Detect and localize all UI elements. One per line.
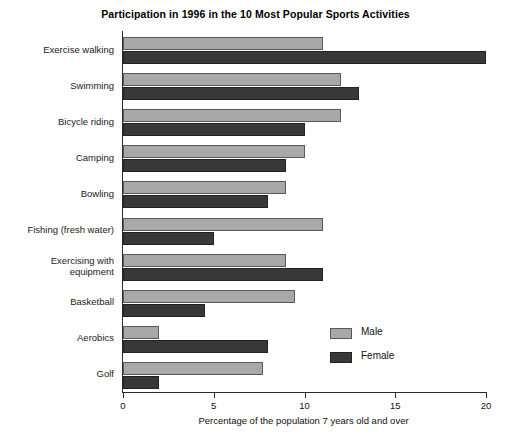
legend-label: Male bbox=[361, 326, 383, 337]
legend-item-male: Male bbox=[330, 326, 450, 343]
x-tick-mark bbox=[214, 392, 215, 398]
legend-item-female: Female bbox=[330, 350, 450, 367]
bar-female bbox=[123, 51, 486, 64]
bar-group bbox=[123, 218, 486, 244]
y-axis-label: Camping bbox=[0, 152, 114, 163]
bar-female bbox=[123, 268, 323, 281]
bar-female bbox=[123, 159, 286, 172]
x-tick-label: 20 bbox=[471, 400, 501, 411]
bar-group bbox=[123, 254, 486, 280]
bar-female bbox=[123, 340, 268, 353]
bar-male bbox=[123, 290, 295, 303]
bar-group bbox=[123, 37, 486, 63]
y-axis-label: Golf bbox=[0, 368, 114, 379]
bar-male bbox=[123, 254, 286, 267]
y-axis-category-labels: Exercise walkingSwimmingBicycle ridingCa… bbox=[0, 31, 118, 392]
legend-label: Female bbox=[361, 350, 394, 361]
bar-group bbox=[123, 145, 486, 171]
x-tick-mark bbox=[486, 392, 487, 398]
x-tick-mark bbox=[395, 392, 396, 398]
y-axis-label: Exercise walking bbox=[0, 44, 114, 55]
y-axis-label: Fishing (fresh water) bbox=[0, 224, 114, 235]
chart-title: Participation in 1996 in the 10 Most Pop… bbox=[0, 8, 511, 20]
sports-participation-bar-chart: Participation in 1996 in the 10 Most Pop… bbox=[0, 0, 511, 444]
y-axis-label: Bicycle riding bbox=[0, 116, 114, 127]
x-tick-label: 15 bbox=[380, 400, 410, 411]
x-tick-mark bbox=[305, 392, 306, 398]
bar-male bbox=[123, 362, 263, 375]
bar-male bbox=[123, 73, 341, 86]
y-axis-label: Swimming bbox=[0, 80, 114, 91]
bar-group bbox=[123, 109, 486, 135]
bar-group bbox=[123, 73, 486, 99]
y-axis-label: Exercising withequipment bbox=[0, 255, 114, 277]
x-tick-label: 5 bbox=[199, 400, 229, 411]
bar-male bbox=[123, 218, 323, 231]
bar-female bbox=[123, 123, 305, 136]
bar-group bbox=[123, 181, 486, 207]
chart-legend: MaleFemale bbox=[330, 326, 450, 374]
bar-female bbox=[123, 195, 268, 208]
x-axis-title: Percentage of the population 7 years old… bbox=[122, 415, 485, 426]
legend-swatch-male bbox=[330, 328, 352, 339]
bar-male bbox=[123, 181, 286, 194]
bar-male bbox=[123, 326, 159, 339]
bar-male bbox=[123, 109, 341, 122]
y-axis-label: Bowling bbox=[0, 188, 114, 199]
bar-female bbox=[123, 304, 205, 317]
bar-male bbox=[123, 37, 323, 50]
bar-female bbox=[123, 232, 214, 245]
y-axis-label: Aerobics bbox=[0, 332, 114, 343]
bar-male bbox=[123, 145, 305, 158]
legend-swatch-female bbox=[330, 352, 352, 363]
y-axis-label: Basketball bbox=[0, 296, 114, 307]
bar-group bbox=[123, 290, 486, 316]
x-tick-label: 0 bbox=[108, 400, 138, 411]
bar-female bbox=[123, 376, 159, 389]
bar-female bbox=[123, 87, 359, 100]
x-tick-label: 10 bbox=[290, 400, 320, 411]
x-tick-mark bbox=[123, 392, 124, 398]
